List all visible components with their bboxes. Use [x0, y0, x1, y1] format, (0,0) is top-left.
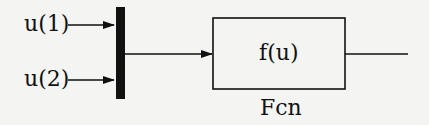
mux-bar[interactable] — [116, 7, 125, 99]
fcn-block-name: Fcn — [260, 97, 302, 119]
fcn-expression: f(u) — [259, 42, 298, 64]
input-2-label: u(2) — [24, 68, 69, 90]
input-1-label: u(1) — [24, 13, 69, 35]
